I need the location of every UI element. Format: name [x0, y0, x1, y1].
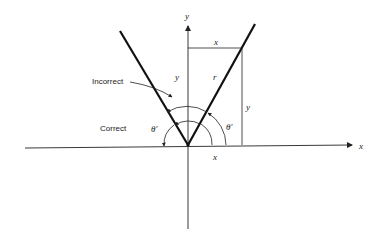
angle-diagram: y x x y r y x θ′ θ′ Incorrect Correct: [0, 0, 383, 245]
origin-point: [186, 143, 189, 146]
r-label: r: [213, 72, 217, 82]
correct-label: Correct: [100, 124, 127, 133]
incorrect-label: Incorrect: [92, 77, 124, 86]
x-axis-label: x: [358, 141, 363, 151]
theta-right-label: θ′: [226, 122, 233, 132]
right-y-label: y: [245, 102, 250, 112]
top-x-label: x: [213, 37, 218, 47]
correct-arc-left: [164, 125, 174, 146]
correct-arc: [175, 121, 200, 125]
incorrect-arc: [167, 106, 207, 112]
inner-arc-right: [201, 124, 212, 145]
theta-left-label: θ′: [151, 124, 158, 134]
y-axis-label: y: [184, 11, 189, 21]
bottom-x-label: x: [212, 152, 217, 162]
left-y-label: y: [174, 72, 179, 82]
outer-arc-right: [208, 113, 226, 145]
